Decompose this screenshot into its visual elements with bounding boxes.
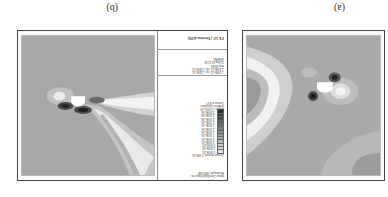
legend-level-value: -2.500E+05 (202, 140, 215, 143)
legend-level-value: -2.250E+06 (202, 113, 215, 116)
legend-meta-line: -1.250E+01 <y< 1.250E+01 (192, 70, 224, 73)
legend-level-value: -1.000E+06 (202, 130, 215, 133)
figure: (a) (b) (0, 0, 388, 197)
legend-date: 15-Sep-04 12:06 (192, 60, 224, 63)
legend-level-value: 5.000E+05 (202, 150, 215, 153)
contour-plot-b (21, 35, 155, 176)
legend-level: -2.500E+06 (192, 110, 224, 113)
contour-range: Magfac = 0.000e+00 Gradient Calculation (192, 104, 224, 110)
legend-level-value: -2.500E+06 (202, 110, 215, 113)
legend-meta-line: -1.250E+01 <x< 1.250E+01 (192, 67, 224, 70)
legend-meta: -1.250E+01 <y< 1.250E+01 -1.250E+01 <x< … (192, 57, 224, 73)
contour-graphic-a (247, 36, 380, 175)
legend-level-value: -7.500E+05 (202, 133, 215, 136)
legend-level-value: 2.500E+05 (202, 146, 215, 149)
panel-a-label: (a) (334, 3, 345, 14)
contour-scale: Contour interval= 2.50E+05 5.000E+05 2.5… (192, 100, 224, 156)
legend-footer-line: Itasca Consulting Group, Inc. (191, 174, 224, 177)
contour-plot-a (246, 35, 381, 176)
legend-footer: Itasca Consulting Group, Inc. Minneapoli… (191, 171, 224, 177)
contour-graphic-b (22, 36, 154, 175)
panel-a (242, 30, 385, 181)
legend-divider (158, 49, 227, 50)
legend-level-value: -5.000E+05 (202, 136, 215, 139)
contour-range-line: Gradient Calculation (192, 104, 224, 107)
plot-legend: Itasca Consulting Group, Inc. Minneapoli… (157, 31, 227, 180)
legend-program-title: FLAC (Version 4.00) (188, 37, 224, 40)
legend-level-value: -1.750E+06 (202, 120, 215, 123)
contour-title: Contour of SYY (192, 100, 224, 103)
legend-level-value: -1.500E+06 (202, 123, 215, 126)
panel-b: Itasca Consulting Group, Inc. Minneapoli… (17, 30, 228, 181)
legend-level-value: -1.250E+06 (202, 126, 215, 129)
legend-divider (158, 75, 227, 76)
legend-level-value: 0.000E+00 (202, 143, 215, 146)
legend-level-value: -2.000E+06 (202, 117, 215, 120)
panel-b-label: (b) (106, 3, 118, 14)
contour-range-line: Magfac = 0.000e+00 (192, 107, 224, 110)
